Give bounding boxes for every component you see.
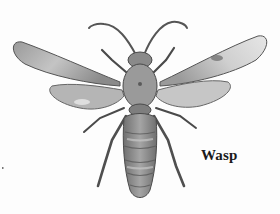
stray-mark [2,167,4,169]
left-forewing [13,42,120,86]
left-hindwing [50,84,124,109]
right-forewing [160,36,267,86]
figure-canvas: Wasp [0,0,280,214]
abdomen [123,114,157,198]
wasp-illustration [0,0,280,214]
figure-label: Wasp [201,147,238,164]
